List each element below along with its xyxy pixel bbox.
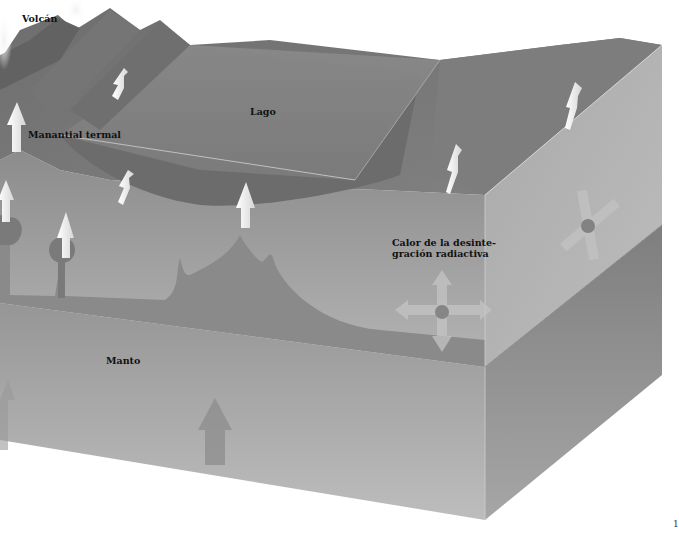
label-hot-spring: Manantial termal (28, 129, 121, 140)
page-number: 1 (673, 519, 679, 529)
label-radiogenic-heat-line2: gración radiactiva (392, 248, 496, 259)
volcano-smoke (66, 0, 86, 22)
label-volcano: Volcán (22, 13, 57, 24)
label-lake: Lago (250, 106, 276, 117)
label-mantle: Manto (106, 355, 140, 366)
label-radiogenic-heat-line1: Calor de la desinte- (392, 237, 496, 248)
label-radiogenic-heat: Calor de la desinte- gración radiactiva (392, 237, 496, 259)
geothermal-block-diagram (0, 0, 679, 533)
